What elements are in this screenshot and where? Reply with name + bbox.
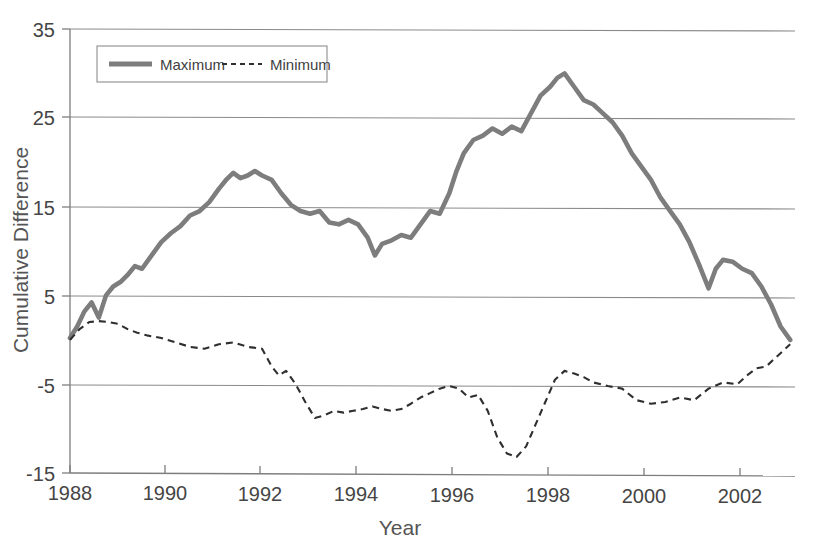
x-ticklabel-1998: 1998 (526, 484, 571, 506)
y-axis: 35 25 15 5 -5 -15 (26, 19, 70, 485)
x-ticklabel-2002: 2002 (718, 485, 763, 507)
y-ticklabel-35: 35 (33, 19, 55, 41)
x-ticklabel-1990: 1990 (143, 482, 188, 504)
x-axis: 1988 1990 1992 1994 1996 1998 2000 2002 (48, 465, 795, 507)
x-ticklabel-1992: 1992 (238, 483, 283, 505)
gridlines (70, 29, 795, 387)
chart-legend: Maximum Minimum (97, 46, 331, 82)
gridline-5 (70, 296, 795, 298)
y-ticklabel-5: 5 (44, 286, 55, 308)
gridline-35 (70, 29, 795, 31)
legend-label-minimum: Minimum (270, 56, 331, 73)
legend-label-maximum: Maximum (160, 56, 225, 73)
y-axis-title: Cumulative Difference (9, 147, 32, 353)
x-axis-line (70, 473, 795, 476)
chart-figure: 35 25 15 5 -5 -15 1988 1990 1992 1994 19… (0, 0, 822, 552)
series-line-maximum (70, 73, 790, 339)
gridline-15 (70, 207, 795, 209)
y-ticklabel-minus5: -5 (37, 375, 55, 397)
x-ticklabel-1994: 1994 (334, 483, 379, 505)
chart-svg: 35 25 15 5 -5 -15 1988 1990 1992 1994 19… (0, 0, 822, 552)
gridline-25 (70, 117, 795, 119)
y-ticklabel-15: 15 (33, 197, 55, 219)
x-ticklabel-1988: 1988 (48, 482, 93, 504)
series-line-minimum (70, 321, 790, 457)
x-ticklabel-1996: 1996 (430, 484, 475, 506)
x-axis-title: Year (379, 516, 421, 539)
gridline-minus5 (70, 385, 795, 387)
y-ticklabel-25: 25 (33, 107, 55, 129)
x-ticklabel-2000: 2000 (622, 485, 667, 507)
